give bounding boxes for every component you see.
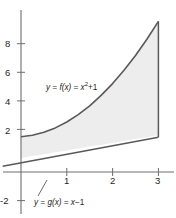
function-plot-figure: 8 6 4 2 -2 1 2 3 y = f(x) = x2+1 y = g(x… — [0, 0, 176, 218]
curve-label-f-tail: +1 — [88, 83, 97, 92]
x-tick-label-3: 3 — [155, 176, 160, 186]
x-tick-label-2: 2 — [110, 176, 115, 186]
curve-label-g: y = g(x) = x−1 — [34, 199, 84, 207]
y-tick-label-2: 2 — [5, 126, 10, 136]
x-tick-label-1: 1 — [64, 176, 69, 186]
plot-canvas — [0, 0, 176, 218]
y-tick-label-minus-2: -2 — [0, 196, 8, 206]
y-tick-label-4: 4 — [5, 97, 10, 107]
y-tick-label-8: 8 — [5, 39, 10, 49]
curve-label-f: y = f(x) = x2+1 — [46, 84, 97, 92]
curve-label-g-lead: y = g(x) = x — [34, 198, 75, 207]
y-tick-label-6: 6 — [5, 68, 10, 78]
curve-label-g-tail: −1 — [75, 198, 84, 207]
g-label-leader-line — [38, 180, 47, 196]
curve-label-f-lead: y = f(x) = x — [46, 83, 85, 92]
